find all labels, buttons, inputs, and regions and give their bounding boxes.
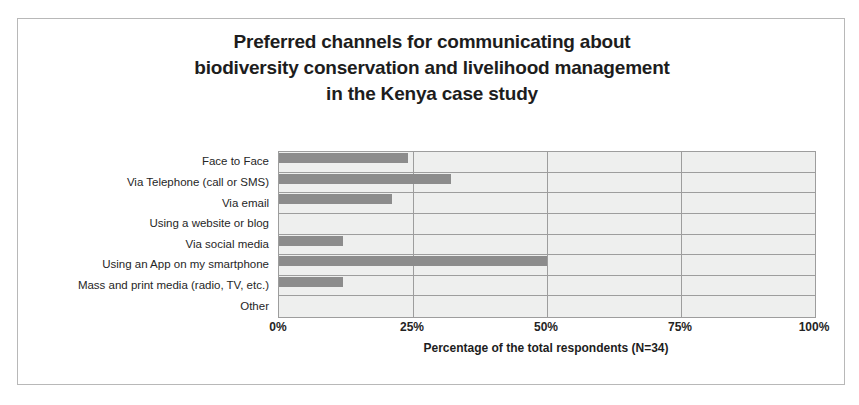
chart-plot-wrapper: Face to Face Via Telephone (call or SMS)…	[18, 19, 846, 386]
bar-mass-print-media	[279, 277, 343, 287]
x-tick-0: 0%	[269, 320, 286, 334]
y-axis-label-face-to-face: Face to Face	[18, 151, 274, 172]
plot-area	[278, 151, 816, 318]
bar-row-via-email	[279, 193, 815, 214]
x-tick-50: 50%	[534, 320, 558, 334]
y-axis-label-via-telephone: Via Telephone (call or SMS)	[18, 172, 274, 193]
y-axis-label-other: Other	[18, 295, 274, 316]
bar-row-smartphone-app	[279, 255, 815, 276]
x-tick-100: 100%	[799, 320, 830, 334]
x-tick-25: 25%	[400, 320, 424, 334]
x-axis-tick-labels: 0% 25% 50% 75% 100%	[278, 320, 814, 338]
bar-row-website-or-blog	[279, 214, 815, 235]
chart-figure-frame: Preferred channels for communicating abo…	[17, 18, 845, 385]
bar-social-media	[279, 236, 343, 246]
bar-face-to-face	[279, 153, 408, 163]
y-axis-label-smartphone-app: Using an App on my smartphone	[18, 254, 274, 275]
bar-row-social-media	[279, 235, 815, 256]
y-axis-category-labels: Face to Face Via Telephone (call or SMS)…	[18, 151, 274, 316]
bar-via-email	[279, 194, 392, 204]
bar-via-telephone	[279, 174, 451, 184]
bar-row-face-to-face	[279, 152, 815, 173]
x-axis-title: Percentage of the total respondents (N=3…	[278, 341, 814, 355]
bar-row-via-telephone	[279, 173, 815, 194]
y-axis-label-mass-print-media: Mass and print media (radio, TV, etc.)	[18, 275, 274, 296]
x-tick-75: 75%	[668, 320, 692, 334]
y-axis-label-social-media: Via social media	[18, 234, 274, 255]
bar-row-mass-print-media	[279, 276, 815, 297]
y-axis-label-via-email: Via email	[18, 192, 274, 213]
bar-row-other	[279, 296, 815, 317]
y-axis-label-website-or-blog: Using a website or blog	[18, 213, 274, 234]
bar-smartphone-app	[279, 256, 547, 266]
